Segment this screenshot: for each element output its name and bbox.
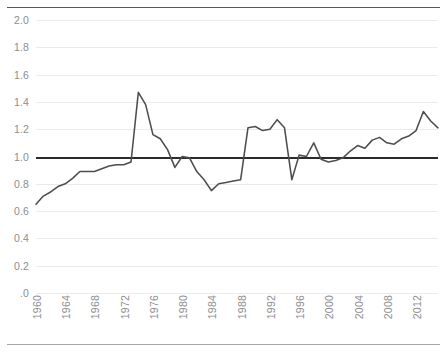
y-axis-tick-label: 1.8 (14, 41, 29, 53)
x-axis-tick-label: 1980 (177, 295, 189, 319)
y-axis-tick-label: .0 (20, 287, 29, 299)
y-axis-tick-label: 1.4 (14, 96, 29, 108)
x-axis-tick-label: 1964 (60, 295, 72, 319)
plot-area: 2.01.81.61.41.21.00.80.60.40.2.0 (36, 20, 438, 293)
x-axis-tick-label: 1984 (206, 295, 218, 319)
x-axis-tick-label: 1960 (31, 295, 43, 319)
y-axis-tick-label: 2.0 (14, 14, 29, 26)
y-axis-tick-label: 1.6 (14, 69, 29, 81)
y-axis-tick-label: 1.2 (14, 123, 29, 135)
x-axis-tick-labels: 1960196419681972197619801984198819921996… (36, 295, 438, 343)
x-axis-tick-label: 1972 (119, 295, 131, 319)
x-axis-tick-label: 2012 (411, 295, 423, 319)
x-axis-tick-label: 1988 (236, 295, 248, 319)
y-axis-tick-label: 0.6 (14, 205, 29, 217)
x-axis-tick-label: 2000 (323, 295, 335, 319)
x-axis-tick-label: 1976 (148, 295, 160, 319)
x-axis-tick-label: 1992 (265, 295, 277, 319)
y-axis-tick-label: 0.4 (14, 232, 29, 244)
gridline--0 (36, 293, 438, 294)
x-axis-tick-label: 1968 (89, 295, 101, 319)
x-axis-tick-label: 2008 (382, 295, 394, 319)
series-line-chart (36, 20, 438, 293)
series-polyline (36, 92, 438, 204)
y-axis-tick-label: 0.2 (14, 260, 29, 272)
top-divider-rule (7, 7, 440, 8)
y-axis-tick-label: 0.8 (14, 178, 29, 190)
chart-container: 2.01.81.61.41.21.00.80.60.40.2.0 1960196… (0, 0, 447, 355)
x-axis-tick-label: 1996 (294, 295, 306, 319)
x-axis-tick-label: 2004 (353, 295, 365, 319)
bottom-divider-rule (7, 344, 440, 345)
y-axis-tick-label: 1.0 (14, 151, 29, 163)
